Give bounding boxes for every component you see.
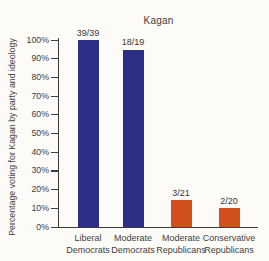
y-axis-tick [51,189,58,190]
y-axis-tick-label: 30% [18,165,49,176]
y-axis-tick [51,208,58,209]
y-axis-tick-label: 50% [18,128,49,139]
y-axis-tick-label: 20% [18,184,49,195]
y-axis-tick-label: 40% [18,147,49,158]
y-axis-tick [51,40,58,41]
y-axis-tick [51,77,58,78]
category-label-line: Republicans [198,245,260,257]
y-axis-tick [51,170,58,171]
y-axis-tick [51,96,58,97]
category-label-conservative-republicans: ConservativeRepublicans [198,233,260,256]
bar-value-label-moderate-democrats: 18/19 [111,37,155,47]
chart-title: Kagan [59,15,258,26]
bar-moderate-democrats [123,50,144,227]
y-axis-tick-label: 60% [18,109,49,120]
y-axis-tick-label: 90% [18,53,49,64]
y-axis-tick-label: 0% [18,222,49,233]
y-axis-line [58,38,59,228]
y-axis-tick-label: 70% [18,91,49,102]
y-axis-tick [51,58,58,59]
y-axis-tick [51,133,58,134]
y-axis-tick [51,114,58,115]
bar-conservative-republicans [219,208,240,227]
y-axis-tick-label: 80% [18,72,49,83]
bar-value-label-conservative-republicans: 2/20 [207,196,251,206]
y-axis-tick-label: 100% [18,35,49,46]
bar-moderate-republicans [171,200,192,227]
bar-value-label-liberal-democrats: 39/39 [66,28,110,38]
kagan-vote-bar-chart: Kagan Percentage voting for Kagan by par… [0,0,269,261]
y-axis-tick-label: 10% [18,203,49,214]
category-label-line: Conservative [198,233,260,245]
bar-liberal-democrats [78,40,99,227]
y-axis-tick [51,227,58,228]
x-axis-line [58,227,258,228]
y-axis-tick [51,152,58,153]
bar-value-label-moderate-republicans: 3/21 [159,188,203,198]
y-axis-label: Percentage voting for Kagan by party and… [7,33,17,241]
